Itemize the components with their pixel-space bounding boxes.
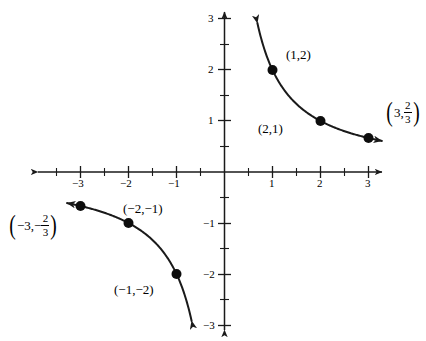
fraction-numerator: 2 xyxy=(42,213,50,224)
figure-background xyxy=(0,0,426,341)
fraction-denominator: 3 xyxy=(42,227,50,238)
y-tick-label--2: −2 xyxy=(203,269,215,280)
data-point-neg1-neg2[interactable] xyxy=(172,269,182,279)
data-point-2-1[interactable] xyxy=(316,116,326,126)
hyperbola-graph xyxy=(0,0,426,341)
y-tick-label--1: −1 xyxy=(203,218,215,229)
x-tick-label-1: 1 xyxy=(269,178,275,189)
point-label-neg1-neg2: (−1,−2) xyxy=(114,283,154,296)
fraction-numerator: 2 xyxy=(404,100,412,111)
y-tick-label--3: −3 xyxy=(203,320,215,331)
fraclabel-first-term: −3, xyxy=(17,219,34,232)
point-label-3-two-thirds: ( 3, 2 3 ) xyxy=(385,100,421,125)
fraction-two-thirds: 2 3 xyxy=(41,213,49,238)
paren-open-icon: ( xyxy=(386,102,392,123)
fraclabel-minus-sign: − xyxy=(34,219,41,232)
paren-open-icon: ( xyxy=(9,215,15,236)
paren-close-icon: ) xyxy=(413,102,419,123)
paren-close-icon: ) xyxy=(51,215,57,236)
fraclabel-body: −3, − 2 3 xyxy=(17,213,49,238)
point-label-neg2-neg1: (−2,−1) xyxy=(123,202,163,215)
data-point-1-2[interactable] xyxy=(268,65,278,75)
point-label-2-1: (2,1) xyxy=(258,122,283,135)
y-tick-label-2: 2 xyxy=(208,64,214,75)
y-tick-label-1: 1 xyxy=(208,115,214,126)
fraction-denominator: 3 xyxy=(404,114,412,125)
fraclabel-first-term: 3, xyxy=(394,106,404,119)
point-label-1-2: (1,2) xyxy=(286,48,311,61)
x-tick-label--2: −2 xyxy=(120,178,132,189)
x-tick-label--1: −1 xyxy=(168,178,180,189)
y-tick-label-3: 3 xyxy=(208,13,214,24)
fraction-two-thirds: 2 3 xyxy=(404,100,412,125)
data-point-3-two-thirds[interactable] xyxy=(364,133,374,143)
fraclabel-body: 3, 2 3 xyxy=(394,100,412,125)
x-tick-label-3: 3 xyxy=(365,178,371,189)
point-label-neg3-neg-two-thirds: ( −3, − 2 3 ) xyxy=(8,213,58,238)
x-tick-label-2: 2 xyxy=(317,178,323,189)
x-tick-label--3: −3 xyxy=(72,178,84,189)
data-point-neg2-neg1[interactable] xyxy=(124,218,134,228)
data-point-neg3-neg-two-thirds[interactable] xyxy=(76,201,86,211)
